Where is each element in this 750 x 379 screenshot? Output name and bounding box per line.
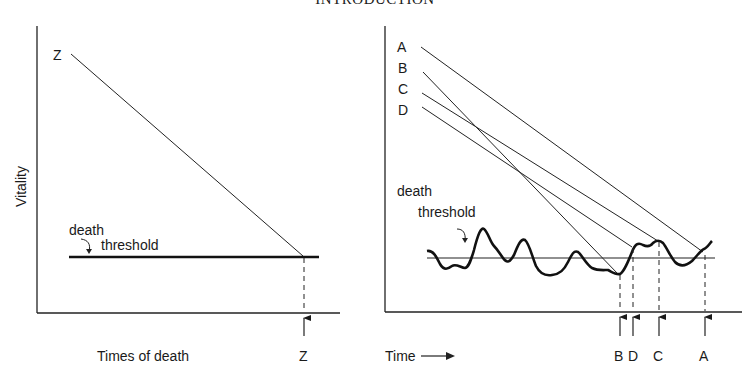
fluctuating-threshold-curve [427, 229, 712, 276]
b-time-marker: B [614, 348, 623, 364]
right-threshold-label-threshold: threshold [418, 204, 476, 220]
left-threshold-label-threshold: threshold [101, 237, 159, 253]
line-a-label: A [397, 39, 407, 55]
line-a [421, 47, 703, 252]
line-z [71, 54, 303, 256]
x-axis-label-time: Time [385, 348, 416, 364]
c-time-marker: C [653, 348, 663, 364]
x-axis-label-times-of-death: Times of death [97, 348, 189, 364]
right-threshold-label-death: death [397, 183, 432, 199]
left-threshold-label-death: death [69, 222, 104, 238]
line-z-label: Z [53, 47, 62, 63]
line-b-label: B [398, 60, 407, 76]
a-time-marker: A [699, 348, 709, 364]
diagram-canvas: Z death threshold Vitality Times of deat… [0, 0, 750, 379]
left-panel: Z death threshold Vitality Times of deat… [13, 26, 340, 364]
z-time-marker: Z [299, 348, 308, 364]
line-d-label: D [398, 102, 408, 118]
right-panel: A B C D death threshold Time B D C A [385, 26, 742, 364]
line-c-label: C [398, 81, 408, 97]
d-time-marker: D [628, 348, 638, 364]
y-axis-label-vitality: Vitality [13, 166, 29, 207]
